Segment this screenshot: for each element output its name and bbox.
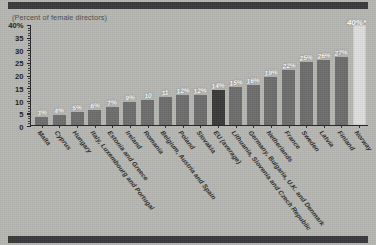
bar-italy-luxembourg-and-portugal: 6% [88,110,101,125]
x-tick [77,125,78,128]
bar-slot: 10 [139,25,157,125]
bar-value-label: 6% [90,101,100,109]
y-tick-label-15: 15 [15,84,23,93]
y-minor-tick [28,98,31,99]
y-minor-tick [28,48,31,49]
bar-slot: 16% [245,25,263,125]
bar-lithuania-slovenia-and-czech-republic: 15% [229,87,242,124]
y-minor-tick [28,103,31,104]
y-minor-tick [28,91,31,92]
y-tick-5: 5 [27,113,32,114]
chart-figure: (Percent of female directors) 40%* 05101… [0,0,376,245]
x-tick [95,125,96,128]
x-label-norway: Norway [354,129,374,152]
y-minor-tick [28,86,31,87]
y-minor-tick [28,70,31,71]
bar-slot: 14% [209,25,227,125]
bar-slot: 15% [227,25,245,125]
bar-series: 3%4%5%6%7%9%101112%12%14%15%16%19%22%25%… [33,25,368,125]
y-tick-15: 15 [27,88,32,89]
y-minor-tick [28,60,31,61]
bar-value-label: 19% [264,69,278,78]
plot-area: 0510152025303540% 3%4%5%6%7%9%101112%12%… [30,25,368,126]
bar-slot: 27% [333,25,351,125]
bar-slot: 7% [104,25,122,125]
y-minor-tick [28,93,31,94]
bar-slot: 5% [68,25,86,125]
y-minor-tick [28,121,31,122]
y-minor-tick [28,81,31,82]
y-tick-label-25: 25 [15,59,23,68]
bar-eu-average: 14% [212,90,225,125]
y-tick-0: 0 [27,126,32,127]
y-minor-tick [28,45,31,46]
y-tick-label-35: 35 [15,33,23,42]
y-minor-tick [28,83,31,84]
y-tick-20: 20 [27,76,32,77]
y-tick-label-20: 20 [15,72,23,81]
y-minor-tick [28,33,31,34]
y-tick-label-30: 30 [15,46,23,55]
bar-value-label: 10 [143,91,151,99]
bar-slot: 12% [192,25,210,125]
y-minor-tick [28,35,31,36]
bar-value-label: 3% [37,109,47,117]
x-label-ireland: Ireland [124,129,143,150]
x-label-poland: Poland [177,129,196,151]
bar-value-label: 25% [299,54,313,63]
bar-ireland: 9% [123,102,136,124]
bar-belgium-austria-and-spain: 11 [159,97,172,124]
y-minor-tick [28,55,31,56]
bar-poland: 12% [176,95,189,125]
y-minor-tick [28,118,31,119]
x-axis-line [30,125,368,126]
y-minor-tick [28,40,31,41]
y-tick-label-10: 10 [15,97,23,106]
top-rule [8,2,368,9]
bar-slot: 11 [156,25,174,125]
bar-slot: 4% [51,25,69,125]
y-minor-tick [28,68,31,69]
bar-value-label: 9% [125,94,135,102]
y-minor-tick [28,106,31,107]
y-tick-35: 35 [27,38,32,39]
bar-germany-bulgaria-u-k-and-denmark: 16% [247,85,260,125]
y-tick-label-5: 5 [19,110,23,119]
y-tick-40: 40% [27,25,32,26]
bar-slot: 22% [280,25,298,125]
bottom-rule [8,236,368,243]
x-tick [130,125,131,128]
x-tick [148,125,149,128]
y-minor-tick [28,30,31,31]
x-tick [253,125,254,128]
x-tick [59,125,60,128]
bar-value-label: 11 [161,89,169,97]
bar-slot: 6% [86,25,104,125]
x-tick [183,125,184,128]
x-label-malta: Malta [36,129,52,147]
x-axis-category-labels: MaltaCyprusHungaryItaly, Luxembourg and … [33,127,371,232]
x-tick [306,125,307,128]
x-tick [112,125,113,128]
bar-value-label: 26% [317,51,331,60]
y-minor-tick [28,78,31,79]
bar-value-label: 14% [211,81,225,90]
x-tick [165,125,166,128]
bar-slot: 19% [262,25,280,125]
bar-slovakia: 12% [194,95,207,125]
y-minor-tick [28,53,31,54]
y-minor-tick [28,111,31,112]
bar-value-label: 7% [107,99,117,107]
x-tick [42,125,43,128]
y-tick-30: 30 [27,50,32,51]
y-minor-tick [28,43,31,44]
bar-value-label: 12% [176,86,190,95]
y-tick-10: 10 [27,101,32,102]
bar-finland: 27% [335,57,348,124]
y-minor-tick [28,116,31,117]
bar-romania: 10 [141,100,154,125]
x-tick [341,125,342,128]
bar-malta: 3% [35,117,48,124]
x-tick [324,125,325,128]
x-tick [289,125,290,128]
